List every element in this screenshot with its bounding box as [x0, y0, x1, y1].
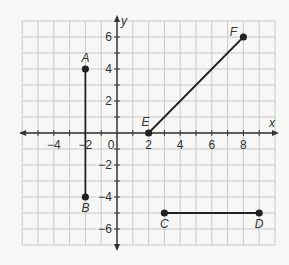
point-label-B: B	[81, 201, 89, 215]
x-axis-label: x	[268, 116, 276, 130]
point-E	[145, 129, 152, 136]
point-D	[256, 209, 263, 216]
point-B	[82, 193, 89, 200]
y-tick-label: 6	[105, 30, 112, 44]
point-label-D: D	[255, 217, 264, 231]
point-label-F: F	[230, 25, 238, 39]
labels: −4−202468642−2−4−6xyABCDEF	[47, 14, 276, 236]
x-tick-label: 4	[177, 138, 184, 152]
x-tick-label: 8	[240, 138, 247, 152]
x-tick-label: 6	[208, 138, 215, 152]
y-axis-arrow-down-icon	[114, 244, 120, 251]
x-tick-label: 2	[145, 138, 152, 152]
y-tick-label: −4	[98, 190, 112, 204]
point-C	[161, 209, 168, 216]
point-A	[82, 65, 89, 72]
coordinate-plane: −4−202468642−2−4−6xyABCDEF	[0, 0, 289, 265]
x-tick-label: −2	[79, 138, 93, 152]
y-axis-label: y	[120, 14, 128, 28]
y-tick-label: −6	[98, 222, 112, 236]
y-tick-label: 2	[105, 94, 112, 108]
point-label-A: A	[80, 51, 89, 65]
point-F	[240, 33, 247, 40]
point-label-E: E	[142, 115, 151, 129]
x-tick-label: 0	[108, 138, 115, 152]
y-axis-arrow-up-icon	[114, 15, 120, 22]
y-tick-label: 4	[105, 62, 112, 76]
point-label-C: C	[160, 217, 169, 231]
x-tick-label: −4	[47, 138, 61, 152]
y-tick-label: −2	[98, 158, 112, 172]
